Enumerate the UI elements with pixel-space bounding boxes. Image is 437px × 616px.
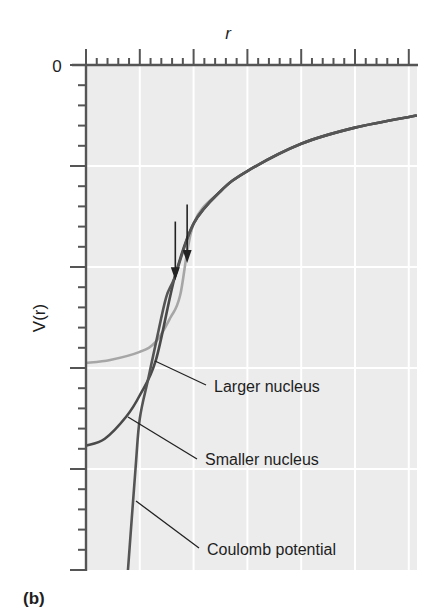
y-zero-label: 0 (52, 57, 61, 76)
panel-label: (b) (23, 589, 45, 608)
coulomb-potential-label: Coulomb potential (207, 541, 336, 558)
plot-area (86, 65, 417, 570)
larger-nucleus-label: Larger nucleus (214, 378, 320, 395)
potential-chart: r 0 V(r) Larger nucleus Smaller nucleus … (0, 0, 437, 616)
y-axis-label: V(r) (30, 304, 49, 332)
x-axis-label: r (225, 24, 232, 43)
smaller-nucleus-label: Smaller nucleus (205, 451, 319, 468)
plot-background (86, 65, 417, 570)
